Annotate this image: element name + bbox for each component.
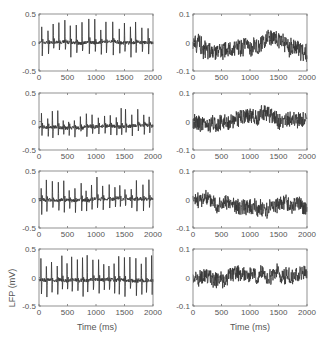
x-tick-label: 500	[61, 230, 75, 239]
y-tick-label: 0.1	[179, 89, 191, 98]
x-tick-label: 2000	[144, 308, 162, 317]
x-tick-label: 2000	[144, 230, 162, 239]
x-axis-label-right: Time (ms)	[230, 322, 270, 332]
x-tick-label: 1500	[116, 230, 134, 239]
y-tick-label: 0.5	[25, 245, 37, 254]
y-tick-label: -0.5	[22, 302, 36, 311]
x-tick-label: 2000	[144, 73, 162, 82]
y-tick-label: 0	[186, 274, 191, 283]
x-tick-label: 1000	[241, 230, 259, 239]
lfp-trace	[193, 105, 307, 132]
x-tick-label: 500	[61, 152, 75, 161]
y-tick-label: -0.1	[176, 302, 190, 311]
panel-grid: 0500100015002000-0.500.50500100015002000…	[22, 10, 316, 317]
panel-row2-left: 0500100015002000-0.500.5	[22, 89, 162, 161]
y-tick-label: -0.5	[22, 67, 36, 76]
x-tick-label: 1000	[241, 152, 259, 161]
x-tick-label: 2000	[144, 152, 162, 161]
y-tick-label: -0.5	[22, 146, 36, 155]
lfp-trace	[193, 190, 307, 219]
x-tick-label: 1000	[87, 230, 105, 239]
x-axis-label-left: Time (ms)	[77, 322, 117, 332]
y-tick-label: 0.1	[179, 245, 191, 254]
x-tick-label: 500	[215, 308, 229, 317]
panel-row3-left: 0500100015002000-0.500.5	[22, 167, 162, 239]
x-tick-label: 2000	[298, 73, 316, 82]
x-tick-label: 0	[37, 308, 42, 317]
panel-row1-left: 0500100015002000-0.500.5	[22, 10, 162, 82]
x-tick-label: 1000	[241, 73, 259, 82]
x-tick-label: 1500	[116, 152, 134, 161]
x-tick-label: 500	[215, 152, 229, 161]
x-tick-label: 0	[191, 73, 196, 82]
lfp-trace	[39, 19, 153, 57]
x-tick-label: 1500	[270, 152, 288, 161]
x-tick-label: 0	[37, 152, 42, 161]
x-tick-label: 0	[37, 230, 42, 239]
x-tick-label: 1000	[87, 308, 105, 317]
y-tick-label: -0.1	[176, 146, 190, 155]
x-tick-label: 0	[37, 73, 42, 82]
x-tick-label: 1500	[116, 308, 134, 317]
y-tick-label: 0	[186, 196, 191, 205]
lfp-trace	[193, 30, 307, 62]
y-tick-label: -0.1	[176, 224, 190, 233]
y-tick-label: -0.1	[176, 67, 190, 76]
panel-row2-right: 0500100015002000-0.100.1	[176, 89, 316, 161]
y-tick-label: 0.1	[179, 167, 191, 176]
lfp-trace	[39, 108, 153, 138]
x-tick-label: 2000	[298, 308, 316, 317]
y-axis-label: LFP (mV)	[7, 269, 17, 307]
y-tick-label: 0.1	[179, 10, 191, 19]
lfp-trace	[193, 264, 307, 289]
panel-row4-left: 0500100015002000-0.500.5	[22, 245, 162, 317]
x-tick-label: 1000	[87, 152, 105, 161]
axes-frame	[39, 93, 153, 150]
y-tick-label: 0	[186, 39, 191, 48]
figure: 0500100015002000-0.500.50500100015002000…	[0, 0, 327, 345]
y-tick-label: 0.5	[25, 10, 37, 19]
y-tick-label: 0.5	[25, 89, 37, 98]
x-tick-label: 1500	[270, 308, 288, 317]
x-tick-label: 1500	[116, 73, 134, 82]
x-tick-label: 0	[191, 230, 196, 239]
y-tick-label: 0	[32, 274, 37, 283]
y-tick-label: 0.5	[25, 167, 37, 176]
y-tick-label: 0	[32, 196, 37, 205]
x-tick-label: 1000	[87, 73, 105, 82]
y-tick-label: 0	[32, 118, 37, 127]
x-tick-label: 0	[191, 152, 196, 161]
y-tick-label: 0	[186, 118, 191, 127]
lfp-trace	[39, 255, 153, 297]
x-tick-label: 2000	[298, 152, 316, 161]
y-tick-label: 0	[32, 39, 37, 48]
panel-row1-right: 0500100015002000-0.100.1	[176, 10, 316, 82]
y-tick-label: -0.5	[22, 224, 36, 233]
x-tick-label: 500	[61, 73, 75, 82]
x-tick-label: 500	[61, 308, 75, 317]
x-tick-label: 1500	[270, 73, 288, 82]
x-tick-label: 500	[215, 230, 229, 239]
x-tick-label: 2000	[298, 230, 316, 239]
x-tick-label: 500	[215, 73, 229, 82]
panel-row4-right: 0500100015002000-0.100.1	[176, 245, 316, 317]
x-tick-label: 1500	[270, 230, 288, 239]
x-tick-label: 0	[191, 308, 196, 317]
lfp-trace	[39, 177, 153, 215]
x-tick-label: 1000	[241, 308, 259, 317]
panel-row3-right: 0500100015002000-0.100.1	[176, 167, 316, 239]
